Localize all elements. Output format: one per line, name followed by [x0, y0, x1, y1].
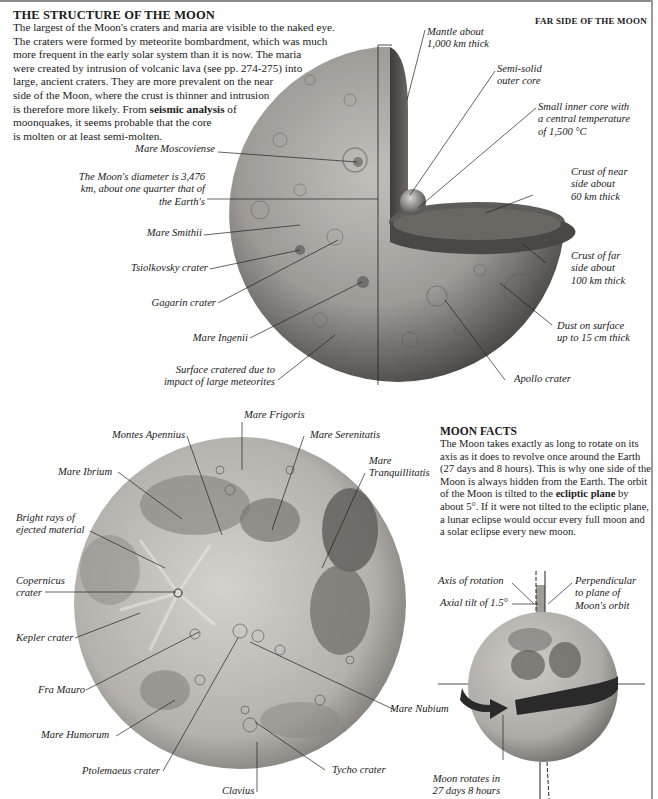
label-tsiolkovsky-crater: Tsiolkovsky crater — [80, 262, 208, 274]
moon-facts-title: MOON FACTS — [440, 425, 517, 437]
label-axial-tilt: Axial tilt of 1.5° — [440, 597, 508, 609]
label-perpendicular: Perpendicularto plane ofMoon's orbit — [575, 575, 636, 612]
label-surface-cratered: Surface cratered due toimpact of large m… — [120, 364, 275, 389]
intro-paragraph: The largest of the Moon's craters and ma… — [13, 21, 353, 143]
label-crust-near: Crust of nearside about60 km thick — [571, 166, 628, 203]
label-mare-frigoris: Mare Frigoris — [244, 409, 305, 421]
label-diameter: The Moon's diameter is 3,476km, about on… — [40, 171, 205, 208]
label-mare-tranquillitatis: MareTranquillitatis — [369, 455, 430, 480]
label-gagarin-crater: Gagarin crater — [100, 297, 216, 309]
near-side-moon — [74, 437, 406, 769]
label-montes-apennius: Montes Apennius — [112, 429, 185, 441]
label-apollo-crater: Apollo crater — [514, 373, 571, 385]
label-mantle: Mantle about1,000 km thick — [427, 26, 489, 51]
label-mare-ibrium: Mare Ibrium — [58, 466, 112, 478]
label-mare-moscoviense: Mare Moscoviense — [100, 143, 215, 155]
label-clavius: Clavius — [222, 785, 254, 797]
intro-line: is molten or at least semi-molten. — [13, 130, 353, 144]
label-bright-rays: Bright rays ofejected material — [16, 512, 85, 537]
intro-line: large, ancient craters. They are more pr… — [13, 75, 353, 89]
label-kepler-crater: Kepler crater — [16, 632, 73, 644]
intro-line: The craters were formed by meteorite bom… — [13, 35, 353, 49]
intro-text: of — [225, 103, 237, 115]
intro-bold-term: seismic analysis — [150, 103, 225, 115]
label-axis-of-rotation: Axis of rotation — [438, 575, 504, 587]
label-mare-ingenii: Mare Ingenii — [120, 332, 248, 344]
label-inner-core: Small inner core witha central temperatu… — [538, 101, 630, 138]
label-fra-mauro: Fra Mauro — [38, 684, 85, 696]
intro-text: is therefore more likely. From — [13, 103, 150, 115]
label-copernicus-crater: Copernicuscrater — [16, 575, 65, 600]
far-side-title: FAR SIDE OF THE MOON — [535, 16, 647, 26]
label-mare-smithii: Mare Smithii — [100, 227, 202, 239]
label-mare-nubium: Mare Nubium — [390, 703, 449, 715]
label-ptolemaeus-crater: Ptolemaeus crater — [82, 765, 160, 777]
label-dust: Dust on surfaceup to 15 cm thick — [557, 320, 630, 345]
intro-line: side of the Moon, where the crust is thi… — [13, 89, 353, 103]
label-outer-core: Semi-solidouter core — [497, 63, 542, 88]
ecliptic-plane-term: ecliptic plane — [556, 488, 616, 499]
intro-line: were created by intrusion of volcanic la… — [13, 62, 353, 76]
label-mare-serenitatis: Mare Serenitatis — [310, 429, 380, 441]
intro-line: more frequent in the early solar system … — [13, 48, 353, 62]
intro-line: is therefore more likely. From seismic a… — [13, 103, 353, 117]
label-crust-far: Crust of farside about100 km thick — [571, 250, 625, 287]
label-rotation-period: Moon rotates in27 days 8 hours — [420, 773, 500, 798]
intro-line: The largest of the Moon's craters and ma… — [13, 21, 353, 35]
intro-line: moonquakes, it seems probable that the c… — [13, 116, 353, 130]
label-mare-humorum: Mare Humorum — [41, 729, 109, 741]
label-tycho-crater: Tycho crater — [332, 764, 386, 776]
moon-facts-paragraph: The Moon takes exactly as long to rotate… — [440, 438, 652, 539]
